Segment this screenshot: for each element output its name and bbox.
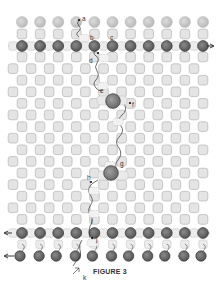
lattice-square xyxy=(17,52,27,62)
lattice-square xyxy=(144,99,154,109)
lattice-square xyxy=(108,52,118,62)
lattice-square xyxy=(8,133,18,143)
lattice-square xyxy=(63,133,73,143)
lattice-square xyxy=(162,29,172,39)
lattice-square xyxy=(189,133,199,143)
lattice-square xyxy=(8,157,18,167)
line-square xyxy=(117,42,125,50)
lattice-square xyxy=(135,180,145,190)
lattice-square xyxy=(117,180,127,190)
top-circle xyxy=(53,16,64,27)
lattice-square xyxy=(144,122,154,132)
lattice-square xyxy=(198,29,208,39)
lattice-square xyxy=(44,64,54,74)
lattice-square xyxy=(81,110,91,120)
lattice-square xyxy=(99,180,109,190)
lattice-square xyxy=(72,99,82,109)
dark-circle xyxy=(35,41,46,52)
lattice-square xyxy=(198,168,208,178)
lattice-square xyxy=(35,99,45,109)
lattice-square xyxy=(126,29,136,39)
lattice-square xyxy=(126,52,136,62)
label-e: e xyxy=(100,87,104,94)
lattice-square xyxy=(63,180,73,190)
lattice-square xyxy=(35,29,45,39)
lattice-square xyxy=(44,110,54,120)
lattice-square xyxy=(26,203,36,213)
lattice-square xyxy=(81,64,91,74)
lattice-square xyxy=(162,191,172,201)
lattice-square xyxy=(153,64,163,74)
hanging-dark-circle xyxy=(143,251,153,261)
lattice-square xyxy=(81,133,91,143)
hanging-dark-circle xyxy=(51,251,61,261)
lattice-square xyxy=(171,110,181,120)
line-square xyxy=(190,229,198,237)
lattice-square xyxy=(198,75,208,85)
lattice-square xyxy=(35,75,45,85)
lattice-square xyxy=(162,75,172,85)
lattice-square xyxy=(26,87,36,97)
lattice-square xyxy=(126,122,136,132)
hanging-dark-circle xyxy=(196,251,206,261)
line-square xyxy=(9,42,17,50)
lattice-square xyxy=(162,99,172,109)
lattice-square xyxy=(189,180,199,190)
lattice-square xyxy=(144,145,154,155)
lattice-square xyxy=(53,145,63,155)
lattice-square xyxy=(153,180,163,190)
label-b: b xyxy=(90,34,94,41)
line-square xyxy=(172,42,180,50)
line-square xyxy=(154,42,162,50)
lattice-square xyxy=(108,191,118,201)
lattice-square xyxy=(144,215,154,225)
upper-dashed-line xyxy=(8,41,214,52)
lattice-square xyxy=(117,87,127,97)
lattice-square xyxy=(198,99,208,109)
dark-circle xyxy=(198,228,209,239)
label-h: h xyxy=(87,174,91,181)
dark-circle xyxy=(180,41,191,52)
dark-circle xyxy=(161,41,172,52)
figure-caption: FIGURE 3 xyxy=(0,268,220,275)
lattice-square xyxy=(99,133,109,143)
lattice-square xyxy=(153,203,163,213)
lattice-square xyxy=(44,203,54,213)
lattice-square xyxy=(53,215,63,225)
lattice-square xyxy=(44,157,54,167)
lattice-square xyxy=(135,64,145,74)
lattice-square xyxy=(44,133,54,143)
lattice-square xyxy=(35,122,45,132)
lattice-square xyxy=(53,29,63,39)
line-square xyxy=(190,42,198,50)
lattice-square xyxy=(17,145,27,155)
lattice-square xyxy=(153,157,163,167)
dark-circle xyxy=(107,41,118,52)
lattice-square xyxy=(180,52,190,62)
dark-circle xyxy=(125,228,136,239)
hanging-dark-circle xyxy=(34,251,44,261)
lattice-square xyxy=(189,157,199,167)
lattice-square xyxy=(17,215,27,225)
lattice-square xyxy=(72,52,82,62)
label-k: k xyxy=(83,274,87,281)
lattice-diagram: abcdefghijk xyxy=(0,0,220,287)
lattice-square xyxy=(63,110,73,120)
lattice-square xyxy=(126,145,136,155)
lattice-square xyxy=(53,191,63,201)
lattice-square xyxy=(26,110,36,120)
lattice-square xyxy=(171,133,181,143)
top-circle-row xyxy=(16,16,208,27)
lower-dashed-line xyxy=(4,228,212,239)
lattice-square xyxy=(108,215,118,225)
lattice-square xyxy=(81,157,91,167)
top-circle xyxy=(161,16,172,27)
lattice-square xyxy=(53,52,63,62)
lattice-square xyxy=(72,191,82,201)
top-circle xyxy=(125,16,136,27)
lattice-square xyxy=(17,99,27,109)
dark-circle xyxy=(89,228,100,239)
lattice-square xyxy=(162,52,172,62)
lattice-square xyxy=(171,157,181,167)
lattice-square xyxy=(180,29,190,39)
